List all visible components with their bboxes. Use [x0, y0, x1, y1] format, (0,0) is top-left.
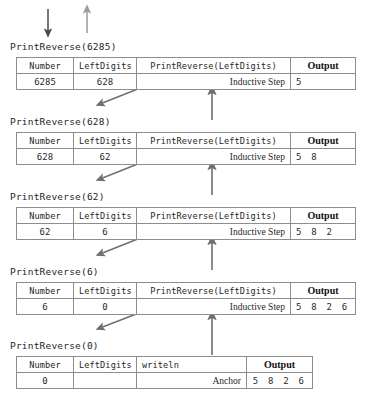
cell-number: 0: [17, 373, 74, 389]
header-left-digits: LeftDigits: [74, 283, 137, 299]
cell-output: 5: [291, 74, 356, 90]
cell-left-digits: 6: [74, 224, 137, 240]
cell-step: Inductive Step: [137, 149, 291, 165]
table-header-row: Number LeftDigits writeln Output: [17, 357, 313, 373]
table-value-row: 0 Anchor 5 8 2 6: [17, 373, 313, 389]
cell-left-digits: 628: [74, 74, 137, 90]
header-recursive-call: PrintReverse(LeftDigits): [137, 58, 291, 74]
cell-number: 6: [17, 299, 74, 315]
header-left-digits: LeftDigits: [74, 208, 137, 224]
header-number: Number: [17, 58, 74, 74]
header-output: Output: [291, 58, 356, 74]
table-value-row: 6 0 Inductive Step 5 8 2 6: [17, 299, 356, 315]
header-recursive-call: PrintReverse(LeftDigits): [137, 208, 291, 224]
cell-step: Inductive Step: [137, 224, 291, 240]
frame-caption: PrintReverse(6): [10, 266, 99, 277]
header-recursive-call: PrintReverse(LeftDigits): [137, 133, 291, 149]
cell-number: 628: [17, 149, 74, 165]
cell-left-digits: [74, 373, 137, 389]
frame-caption: PrintReverse(62): [10, 191, 105, 202]
header-output: Output: [291, 283, 356, 299]
header-output: Output: [291, 133, 356, 149]
table-value-row: 6285 628 Inductive Step 5: [17, 74, 356, 90]
cell-output: 5 8: [291, 149, 356, 165]
cell-output: 5 8 2 6: [247, 373, 313, 389]
header-output: Output: [247, 357, 313, 373]
trace-table: Number LeftDigits PrintReverse(LeftDigit…: [16, 132, 356, 165]
trace-table: Number LeftDigits writeln Output 0 Ancho…: [16, 356, 313, 389]
frame-caption: PrintReverse(628): [10, 116, 111, 127]
cell-output: 5 8 2: [291, 224, 356, 240]
trace-table: Number LeftDigits PrintReverse(LeftDigit…: [16, 207, 356, 240]
cell-step: Inductive Step: [137, 74, 291, 90]
cell-output: 5 8 2 6: [291, 299, 356, 315]
frame-caption: PrintReverse(6285): [10, 41, 117, 52]
table-header-row: Number LeftDigits PrintReverse(LeftDigit…: [17, 133, 356, 149]
table-header-row: Number LeftDigits PrintReverse(LeftDigit…: [17, 58, 356, 74]
trace-table: Number LeftDigits PrintReverse(LeftDigit…: [16, 282, 356, 315]
cell-number: 6285: [17, 74, 74, 90]
recursion-trace-diagram: PrintReverse(6285) Number LeftDigits Pri…: [0, 0, 376, 409]
cell-left-digits: 0: [74, 299, 137, 315]
table-value-row: 62 6 Inductive Step 5 8 2: [17, 224, 356, 240]
header-anchor-call: writeln: [137, 357, 247, 373]
cell-step: Anchor: [137, 373, 247, 389]
header-left-digits: LeftDigits: [74, 58, 137, 74]
cell-step: Inductive Step: [137, 299, 291, 315]
header-number: Number: [17, 357, 74, 373]
table-value-row: 628 62 Inductive Step 5 8: [17, 149, 356, 165]
header-left-digits: LeftDigits: [74, 133, 137, 149]
header-recursive-call: PrintReverse(LeftDigits): [137, 283, 291, 299]
table-header-row: Number LeftDigits PrintReverse(LeftDigit…: [17, 283, 356, 299]
header-output: Output: [291, 208, 356, 224]
header-number: Number: [17, 133, 74, 149]
cell-number: 62: [17, 224, 74, 240]
header-number: Number: [17, 208, 74, 224]
trace-table: Number LeftDigits PrintReverse(LeftDigit…: [16, 57, 356, 90]
cell-left-digits: 62: [74, 149, 137, 165]
frame-caption: PrintReverse(0): [10, 340, 99, 351]
table-header-row: Number LeftDigits PrintReverse(LeftDigit…: [17, 208, 356, 224]
header-left-digits: LeftDigits: [74, 357, 137, 373]
header-number: Number: [17, 283, 74, 299]
